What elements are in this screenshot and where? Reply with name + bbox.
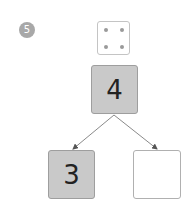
arrow-right bbox=[114, 115, 157, 149]
part-right-answer-box[interactable] bbox=[133, 150, 181, 199]
whole-box: 4 bbox=[91, 65, 138, 114]
arrow-left bbox=[73, 115, 114, 149]
part-left-box: 3 bbox=[48, 150, 95, 199]
